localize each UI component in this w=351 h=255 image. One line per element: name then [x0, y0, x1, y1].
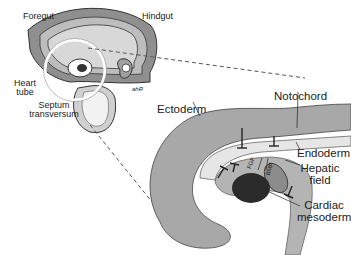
label-hindgut: Hindgut — [142, 12, 173, 21]
artist-signature: ahR — [132, 86, 143, 92]
label-endoderm: Endoderm — [297, 148, 350, 160]
label-hepatic-field: Hepatic field — [300, 163, 340, 186]
label-cardiac-mesoderm: Cardiac mesoderm — [297, 200, 351, 223]
label-foregut: Foregut — [23, 12, 54, 21]
label-ectoderm: Ectoderm — [157, 104, 206, 116]
label-notochord: Notochord — [274, 91, 327, 103]
label-heart-tube: Heart tube — [12, 79, 38, 97]
label-septum-transversum: Septum transversum — [28, 101, 80, 119]
